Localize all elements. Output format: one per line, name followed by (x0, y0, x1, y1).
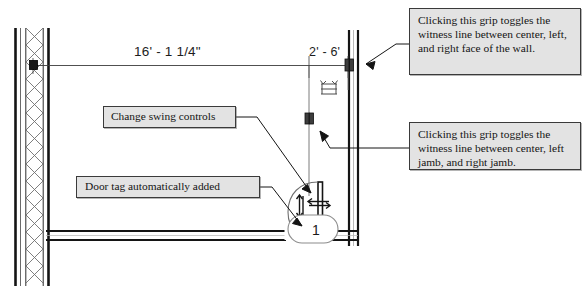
callout-door-tag-text: Door tag automatically added (85, 180, 259, 194)
leader-grip-jamb (320, 131, 409, 148)
callout-grip-jamb[interactable]: Clicking this grip toggles the witness l… (409, 122, 581, 170)
grip-left-wall-icon[interactable] (30, 61, 38, 70)
door-tag-number[interactable]: 1 (312, 222, 320, 238)
callout-change-swing-controls[interactable]: Change swing controls (103, 106, 236, 128)
flip-vertical-arrows-icon[interactable] (297, 195, 304, 217)
callout-grip-wall-text: Clicking this grip toggles the witness l… (418, 14, 573, 56)
grip-jamb-icon[interactable] (305, 113, 314, 124)
dimension-main-label[interactable]: 16' - 1 1/4" (134, 44, 201, 59)
callout-door-tag-added[interactable]: Door tag automatically added (76, 176, 260, 198)
dimension-flip-icon[interactable] (321, 81, 338, 95)
grip-wall-face-icon[interactable] (345, 59, 354, 71)
callout-grip-wall[interactable]: Clicking this grip toggles the witness l… (409, 8, 581, 75)
callout-swing-text: Change swing controls (111, 110, 235, 124)
dimension-door-offset-label[interactable]: 2' - 6' (309, 45, 340, 59)
cad-plan-screenshot: Clicking this grip toggles the witness l… (0, 0, 587, 292)
main-dimension-line[interactable] (33, 56, 348, 78)
callout-grip-jamb-text: Clicking this grip toggles the witness l… (418, 128, 573, 170)
leader-door-tag (260, 187, 302, 226)
door-witness-line[interactable] (309, 66, 348, 196)
leader-grip-wall (366, 44, 409, 70)
